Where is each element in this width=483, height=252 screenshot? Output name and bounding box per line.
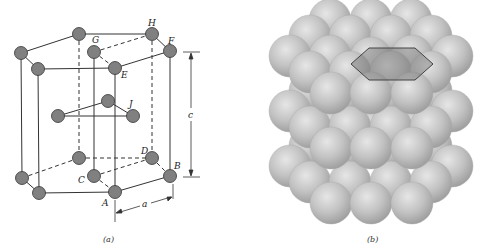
atom-h bbox=[146, 28, 159, 41]
atom-a bbox=[109, 186, 122, 199]
atom bbox=[15, 47, 28, 60]
atom-c bbox=[88, 170, 101, 183]
caption-b: (b) bbox=[367, 235, 378, 244]
atom bbox=[33, 187, 46, 200]
atom bbox=[73, 152, 86, 165]
label-j: J bbox=[127, 99, 134, 109]
figure-canvas: H G F E J D C B A c a (a) bbox=[0, 0, 483, 252]
atom bbox=[16, 172, 29, 185]
atom bbox=[102, 95, 115, 108]
panel-a-hcp-unit-cell: H G F E J D C B A c a (a) bbox=[15, 18, 201, 244]
label-e: E bbox=[120, 70, 128, 80]
atom-b bbox=[164, 170, 177, 183]
atom bbox=[52, 110, 65, 123]
atom bbox=[73, 28, 86, 41]
label-d: D bbox=[140, 146, 148, 156]
dimension-c-label: c bbox=[188, 110, 193, 120]
label-h: H bbox=[147, 18, 156, 28]
panel-b-sphere-stack bbox=[269, 0, 473, 224]
label-a-atom: A bbox=[101, 198, 109, 208]
atom-j bbox=[127, 110, 140, 123]
atom-f bbox=[164, 45, 177, 58]
caption-a: (a) bbox=[103, 235, 114, 244]
label-b: B bbox=[173, 161, 181, 171]
label-g: G bbox=[92, 35, 99, 45]
atom-e bbox=[109, 62, 122, 75]
dimension-a-label: a bbox=[142, 199, 147, 209]
atom-g bbox=[88, 46, 101, 59]
label-c: C bbox=[78, 175, 85, 185]
hexagon-outline bbox=[351, 48, 433, 80]
label-f: F bbox=[167, 36, 175, 46]
atom bbox=[32, 63, 45, 76]
